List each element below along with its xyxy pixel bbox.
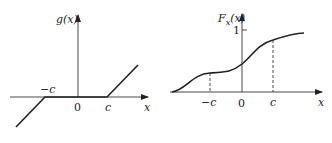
left-pos-c-label: c — [105, 101, 111, 114]
right-origin-label: 0 — [238, 97, 245, 110]
right-neg-c-label: −c — [201, 96, 216, 109]
y-tick-one-label: 1 — [233, 24, 240, 37]
left-neg-c-label: −c — [40, 83, 55, 96]
cdf-curve — [172, 33, 304, 92]
g-function-curve — [16, 65, 138, 127]
y-label-main: F — [217, 12, 226, 25]
right-panel-cdf-plot — [170, 14, 322, 92]
left-x-axis-label: x — [144, 101, 151, 114]
left-origin-label: 0 — [74, 101, 81, 114]
right-pos-c-label: c — [270, 96, 276, 109]
right-y-axis-label: Fx(x) — [217, 12, 245, 27]
right-x-axis-label: x — [318, 96, 325, 109]
figure-canvas: g(x) x 0 −c c Fx(x) 1 x 0 −c c — [0, 0, 332, 143]
left-y-axis-label: g(x) — [56, 13, 78, 26]
